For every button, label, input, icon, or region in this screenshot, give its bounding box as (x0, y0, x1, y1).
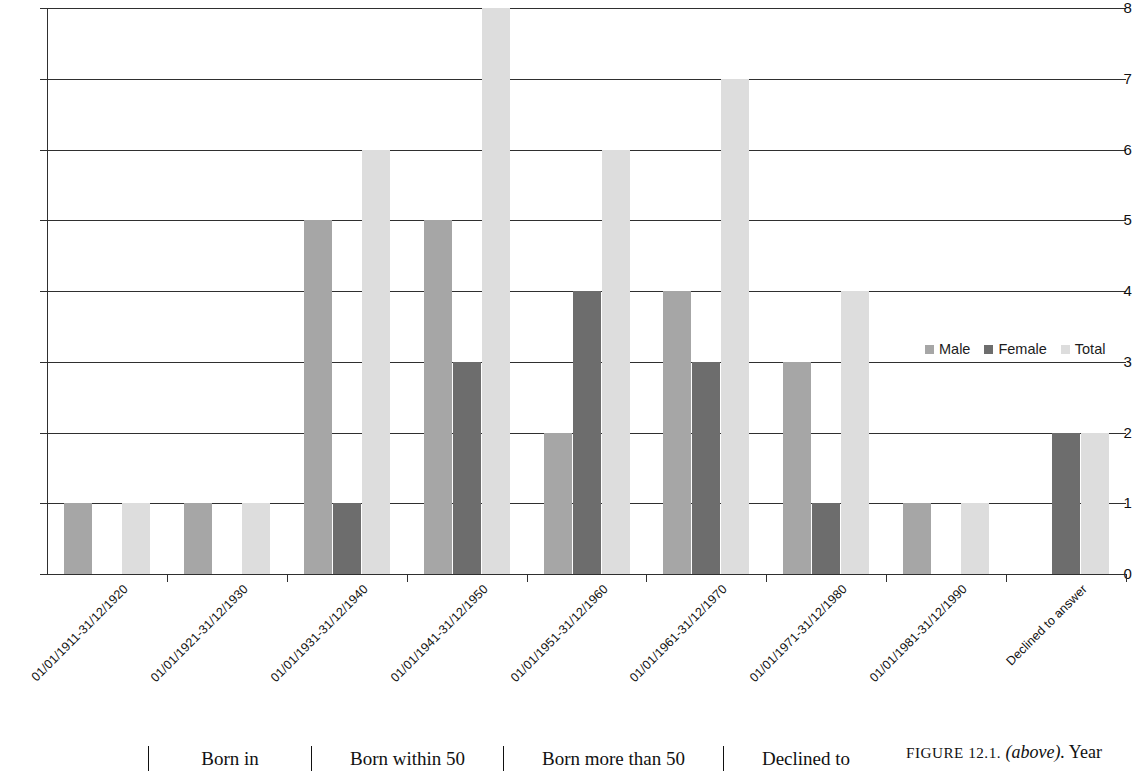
x-tick-mark (167, 574, 168, 582)
chart-legend: Male Female Total (925, 341, 1105, 357)
bar-total (362, 150, 390, 575)
x-axis-label: 01/01/1911-31/12/1920 (29, 582, 131, 684)
x-axis-line (47, 574, 1126, 575)
bar-group (304, 8, 390, 574)
bar-group (184, 8, 270, 574)
bar-total (122, 503, 150, 574)
figure-caption-number: FIGURE 12.1. (906, 744, 1001, 761)
figure-bar-chart: 012345678 01/01/1911-31/12/192001/01/192… (0, 0, 1132, 710)
figure-caption-position-note: (above). (1006, 742, 1065, 762)
x-tick-mark (646, 574, 647, 582)
x-tick-mark (1126, 574, 1127, 582)
x-axis-label: 01/01/1971-31/12/1980 (747, 582, 850, 685)
x-axis-label: 01/01/1941-31/12/1950 (388, 582, 491, 685)
x-tick-mark (766, 574, 767, 582)
bar-male (424, 220, 452, 574)
legend-label-male: Male (939, 341, 970, 357)
y-tick-mark-4 (40, 291, 47, 292)
figure-caption-text: Year (1069, 742, 1102, 762)
y-tick-mark-5 (40, 220, 47, 221)
legend-entry-female: Female (984, 341, 1046, 357)
bar-female (573, 291, 601, 574)
x-axis-label: 01/01/1931-31/12/1940 (268, 582, 371, 685)
bar-male (184, 503, 212, 574)
bar-group (424, 8, 510, 574)
bar-group (1023, 8, 1109, 574)
y-tick-mark-6 (40, 150, 47, 151)
bar-total (1081, 433, 1109, 575)
y-tick-mark-7 (40, 79, 47, 80)
legend-swatch-female-icon (984, 345, 993, 354)
y-tick-mark-8 (40, 8, 47, 9)
x-axis-label: Declined to answer (1004, 582, 1090, 668)
bar-total (721, 79, 749, 574)
legend-swatch-male-icon (925, 345, 934, 354)
x-tick-mark (1006, 574, 1007, 582)
x-axis-label: 01/01/1961-31/12/1970 (627, 582, 730, 685)
bar-group (64, 8, 150, 574)
bar-group (783, 8, 869, 574)
bar-male (903, 503, 931, 574)
bar-total (602, 150, 630, 575)
legend-label-female: Female (998, 341, 1046, 357)
bar-male (783, 362, 811, 574)
x-tick-mark (287, 574, 288, 582)
y-tick-mark-3 (40, 362, 47, 363)
x-axis-label: 01/01/1921-31/12/1930 (148, 582, 251, 685)
bar-group (544, 8, 630, 574)
bar-total (841, 291, 869, 574)
table-header-cell: Declined to (724, 748, 888, 771)
y-tick-mark-1 (40, 503, 47, 504)
legend-swatch-total-icon (1061, 345, 1070, 354)
figure-caption: FIGURE 12.1. (above). Year (906, 742, 1102, 763)
bar-female (1052, 433, 1080, 575)
y-tick-mark-0 (40, 574, 47, 575)
bar-male (304, 220, 332, 574)
table-header-cell: Born in (149, 748, 311, 771)
bar-total (961, 503, 989, 574)
plot-area (47, 8, 1126, 574)
x-axis-label: 01/01/1981-31/12/1990 (867, 582, 970, 685)
bar-group (903, 8, 989, 574)
x-axis-label: 01/01/1951-31/12/1960 (508, 582, 611, 685)
bar-group (663, 8, 749, 574)
bar-female (812, 503, 840, 574)
table-header-cell: Born within 50 (312, 748, 503, 771)
bar-female (692, 362, 720, 574)
x-tick-mark (886, 574, 887, 582)
x-tick-mark (407, 574, 408, 582)
bar-male (663, 291, 691, 574)
legend-entry-total: Total (1061, 341, 1106, 357)
table-header-cell: Born more than 50 (504, 748, 723, 771)
bar-total (482, 8, 510, 574)
bar-female (333, 503, 361, 574)
x-tick-mark (527, 574, 528, 582)
legend-entry-male: Male (925, 341, 970, 357)
y-tick-mark-2 (40, 433, 47, 434)
bar-male (544, 433, 572, 575)
bar-male (64, 503, 92, 574)
bar-female (453, 362, 481, 574)
bar-total (242, 503, 270, 574)
legend-label-total: Total (1075, 341, 1106, 357)
table-header-fragment: Born inBorn within 50Born more than 50De… (148, 742, 888, 771)
